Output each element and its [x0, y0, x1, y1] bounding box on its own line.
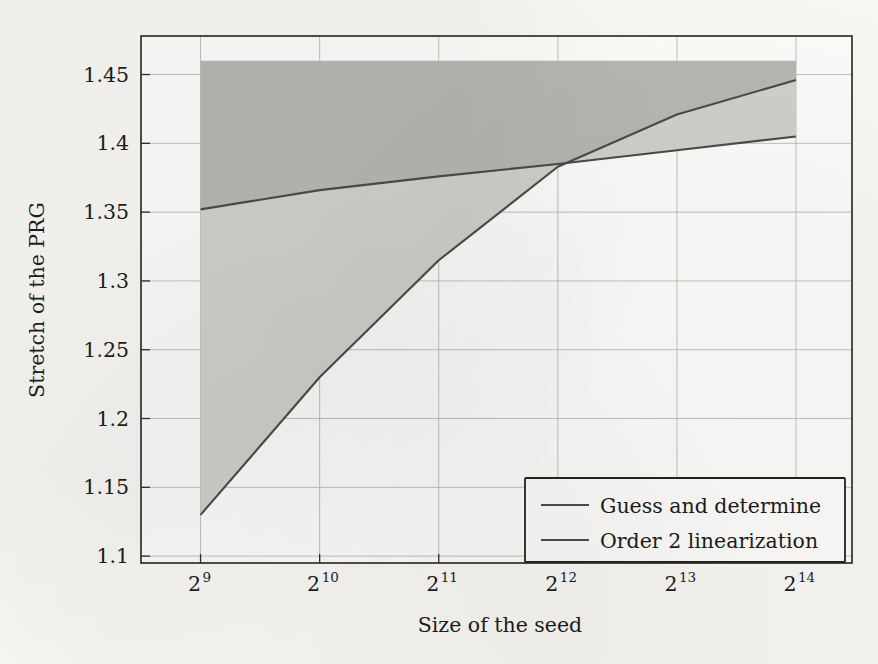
x-tick-label: 29 — [188, 569, 211, 596]
x-tick-label-exponent: 14 — [798, 569, 815, 585]
x-tick-label-exponent: 9 — [203, 569, 212, 585]
y-axis-title: Stretch of the PRG — [25, 202, 49, 398]
x-tick-label-base: 2 — [664, 572, 677, 596]
x-tick-label: 212 — [545, 569, 577, 596]
legend-label-guess-and-determine: Guess and determine — [600, 494, 821, 518]
y-tick-label: 1.2 — [96, 407, 129, 431]
x-tick-label-exponent: 11 — [441, 569, 458, 585]
x-tick-label: 213 — [664, 569, 696, 596]
legend-label-order-2-linearization: Order 2 linearization — [600, 529, 818, 553]
y-tick-label: 1.45 — [83, 63, 129, 87]
x-tick-label-base: 2 — [784, 572, 797, 596]
figure-container: 1.11.151.21.251.31.351.41.45 29210211212… — [0, 0, 878, 664]
x-tick-label-exponent: 12 — [560, 569, 577, 585]
y-tick-label: 1.3 — [96, 269, 129, 293]
y-tick-labels: 1.11.151.21.251.31.351.41.45 — [83, 63, 129, 569]
x-tick-label-base: 2 — [188, 572, 201, 596]
x-tick-label: 210 — [307, 569, 339, 596]
chart-canvas: 1.11.151.21.251.31.351.41.45 29210211212… — [0, 0, 878, 664]
y-tick-label: 1.4 — [96, 131, 129, 155]
x-tick-label-base: 2 — [307, 572, 320, 596]
x-tick-label: 211 — [426, 569, 458, 596]
y-tick-label: 1.1 — [96, 544, 129, 568]
x-tick-labels: 29210211212213214 — [188, 569, 815, 596]
legend[interactable]: Guess and determine Order 2 linearizatio… — [525, 478, 845, 562]
x-tick-label-exponent: 10 — [322, 569, 339, 585]
x-tick-label-exponent: 13 — [679, 569, 696, 585]
x-tick-label-base: 2 — [426, 572, 439, 596]
x-tick-label-base: 2 — [545, 572, 558, 596]
y-tick-label: 1.35 — [83, 200, 129, 224]
x-axis-title: Size of the seed — [418, 613, 583, 637]
y-tick-label: 1.15 — [83, 475, 129, 499]
x-tick-label: 214 — [784, 569, 816, 596]
y-tick-label: 1.25 — [83, 338, 129, 362]
